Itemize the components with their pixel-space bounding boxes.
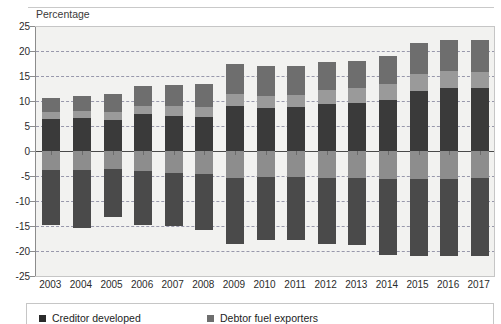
x-axis-tick-label: 2006: [126, 279, 158, 290]
y-axis-tick-mark: [30, 276, 35, 277]
bar-segment: [104, 94, 122, 112]
legend-label: Debtor fuel exporters: [220, 312, 318, 324]
bar-segment: [42, 119, 60, 152]
x-axis-tick: [327, 151, 328, 155]
bar-segment: [104, 120, 122, 152]
bar-segment: [134, 86, 152, 106]
bar-segment: [287, 66, 305, 95]
x-axis-tick-label: 2010: [249, 279, 281, 290]
plot-area: [35, 26, 495, 276]
x-axis-tick: [174, 151, 175, 155]
y-axis-tick-mark: [30, 176, 35, 177]
x-axis-tick-label: 2011: [279, 279, 311, 290]
y-axis-tick-mark: [30, 51, 35, 52]
y-axis-tick-mark: [30, 226, 35, 227]
y-axis-unit-label: Percentage: [36, 8, 90, 20]
y-axis-tick-label: -5: [8, 171, 30, 182]
legend-swatch-icon: [207, 315, 214, 322]
y-axis-tick-label: -20: [8, 246, 30, 257]
bar-segment: [73, 96, 91, 111]
bar-segment: [134, 114, 152, 151]
bar-segment: [257, 66, 275, 96]
y-axis-tick-label: 5: [8, 121, 30, 132]
y-axis-tick-label: 20: [8, 46, 30, 57]
y-axis-tick-mark: [30, 26, 35, 27]
bar-segment: [257, 96, 275, 109]
x-axis-tick: [388, 151, 389, 155]
x-axis-tick-label: 2013: [340, 279, 372, 290]
x-axis-tick: [449, 151, 450, 155]
bar-segment: [440, 71, 458, 88]
bar-segment: [287, 95, 305, 108]
bar-segment: [42, 98, 60, 112]
bar-segment: [287, 107, 305, 151]
x-axis-tick: [143, 151, 144, 155]
chart-root: Percentage 2520151050-5-10-15-20-25 2003…: [0, 0, 501, 324]
bar-segment: [165, 85, 183, 107]
bar-segment: [226, 64, 244, 94]
x-axis-tick: [266, 151, 267, 155]
y-axis-tick-mark: [30, 251, 35, 252]
bar-segment: [165, 116, 183, 152]
bar-segment: [104, 112, 122, 120]
bar-segment: [165, 106, 183, 116]
y-axis-tick-label: 15: [8, 71, 30, 82]
bar-segment: [379, 179, 397, 255]
y-axis-tick-label: 0: [8, 146, 30, 157]
bar-segment: [348, 103, 366, 152]
bar-segment: [410, 91, 428, 151]
x-axis-tick-label: 2005: [96, 279, 128, 290]
bar-segment: [410, 74, 428, 91]
bar-segment: [471, 88, 489, 151]
bar-segment: [379, 151, 397, 179]
bar-segment: [134, 171, 152, 225]
x-axis-tick: [480, 151, 481, 155]
legend-item[interactable]: Creditor developed: [39, 312, 141, 324]
x-axis-tick: [357, 151, 358, 155]
bar-segment: [348, 178, 366, 245]
bar-segment: [471, 72, 489, 89]
bar-segment: [318, 90, 336, 104]
bar-segment: [165, 173, 183, 227]
bar-segment: [287, 177, 305, 240]
y-axis-tick-mark: [30, 201, 35, 202]
bar-segment: [257, 108, 275, 151]
bar-segment: [348, 151, 366, 178]
x-axis-tick-label: 2017: [463, 279, 495, 290]
bar-segment: [410, 151, 428, 179]
x-axis-tick-label: 2007: [157, 279, 189, 290]
legend-swatch-icon: [39, 315, 46, 322]
y-axis-tick-mark: [30, 101, 35, 102]
bar-segment: [134, 106, 152, 115]
x-axis-tick: [204, 151, 205, 155]
x-axis-tick-label: 2003: [34, 279, 66, 290]
x-axis-tick-label: 2014: [371, 279, 403, 290]
x-axis-tick: [51, 151, 52, 155]
bar-segment: [73, 170, 91, 229]
bar-segment: [318, 104, 336, 152]
bar-segment: [440, 88, 458, 152]
legend-label: Creditor developed: [52, 312, 141, 324]
y-axis-tick-label: -15: [8, 221, 30, 232]
legend-item[interactable]: Debtor fuel exporters: [207, 312, 318, 324]
gridline--25: [36, 276, 495, 277]
y-axis-tick-label: 10: [8, 96, 30, 107]
bar-segment: [471, 178, 489, 256]
bar-segment: [226, 178, 244, 244]
y-axis-tick-label: 25: [8, 21, 30, 32]
y-axis-tick-label: -10: [8, 196, 30, 207]
bar-segment: [257, 177, 275, 240]
bar-segment: [440, 40, 458, 72]
x-axis-tick-label: 2004: [65, 279, 97, 290]
x-axis-tick-label: 2012: [310, 279, 342, 290]
x-axis-tick: [113, 151, 114, 155]
x-axis-labels: 2003200420052006200720082009201020112012…: [35, 279, 495, 295]
bar-segment: [318, 62, 336, 90]
bar-segment: [226, 106, 244, 152]
x-axis-tick: [419, 151, 420, 155]
bar-segment: [348, 88, 366, 103]
bar-segment: [379, 84, 397, 100]
x-axis-tick: [296, 151, 297, 155]
bar-segment: [379, 100, 397, 152]
x-axis-tick-label: 2009: [218, 279, 250, 290]
